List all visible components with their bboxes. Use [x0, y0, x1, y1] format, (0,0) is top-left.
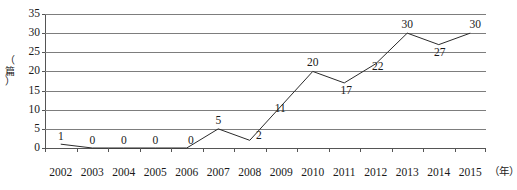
x-axis-tick-label: 2006 [175, 166, 198, 178]
y-axis-tick-label: 10 [18, 104, 40, 116]
x-axis-tick-label: 2010 [301, 166, 324, 178]
data-point-label: 5 [215, 114, 221, 126]
x-axis-tick-label: 2012 [364, 166, 387, 178]
y-axis-tick-label: 15 [18, 85, 40, 97]
y-axis-tick-label: 30 [18, 27, 40, 39]
x-axis-tick-mark [423, 148, 424, 152]
y-axis-tick-label: 5 [18, 123, 40, 135]
data-point-label: 20 [307, 56, 319, 68]
x-axis-tick-labels: 2002200320042005200620072008200920102011… [45, 166, 486, 182]
x-axis-tick-mark [266, 148, 267, 152]
data-point-label: 30 [470, 18, 482, 30]
data-point-label: 22 [372, 60, 384, 72]
data-point-label: 0 [121, 134, 127, 146]
x-axis-tick-mark [140, 148, 141, 152]
x-axis-tick-label: 2005 [144, 166, 167, 178]
x-axis-tick-mark [108, 148, 109, 152]
x-axis-tick-label: 2003 [81, 166, 104, 178]
x-axis-tick-mark [485, 148, 486, 152]
y-axis-tick-label: 25 [18, 47, 40, 59]
x-axis-tick-mark [360, 148, 361, 152]
series-polyline [61, 33, 471, 148]
line-chart: （ 篇 ） 05101520253035 1000052112017223027… [0, 0, 517, 190]
x-axis-tick-label: 2009 [270, 166, 293, 178]
x-axis-unit-label: （年） [489, 166, 517, 178]
x-axis-tick-label: 2004 [112, 166, 135, 178]
x-axis-tick-mark [297, 148, 298, 152]
x-axis-tick-label: 2014 [427, 166, 450, 178]
x-axis-tick-label: 2013 [396, 166, 419, 178]
x-axis-tick-label: 2008 [238, 166, 261, 178]
data-point-label: 17 [341, 84, 353, 96]
x-axis-tick-label: 2015 [459, 166, 482, 178]
data-point-label: 1 [58, 130, 64, 142]
x-axis-tick-label: 2002 [49, 166, 72, 178]
x-axis-tick-marks [45, 148, 486, 153]
data-point-label: 0 [89, 134, 95, 146]
x-axis-tick-mark [203, 148, 204, 152]
x-axis-tick-mark [77, 148, 78, 152]
x-axis-tick-mark [392, 148, 393, 152]
x-axis-tick-label: 2007 [207, 166, 230, 178]
data-point-label: 2 [256, 129, 262, 141]
x-axis-tick-mark [329, 148, 330, 152]
series-line [45, 14, 486, 148]
plot-area: 100005211201722302730 [45, 14, 486, 148]
x-axis-tick-mark [234, 148, 235, 152]
data-point-label: 11 [275, 102, 286, 114]
x-axis-tick-mark [45, 148, 46, 152]
y-axis-tick-labels: 05101520253035 [16, 0, 40, 190]
y-axis-tick-label: 0 [18, 142, 40, 154]
data-point-label: 0 [188, 134, 194, 146]
x-axis-tick-label: 2011 [333, 166, 356, 178]
data-point-label: 0 [152, 134, 158, 146]
x-axis-tick-mark [171, 148, 172, 152]
y-axis-tick-label: 20 [18, 66, 40, 78]
data-point-label: 30 [402, 18, 414, 30]
y-axis-tick-label: 35 [18, 8, 40, 20]
data-point-label: 27 [434, 46, 446, 58]
x-axis-tick-mark [455, 148, 456, 152]
